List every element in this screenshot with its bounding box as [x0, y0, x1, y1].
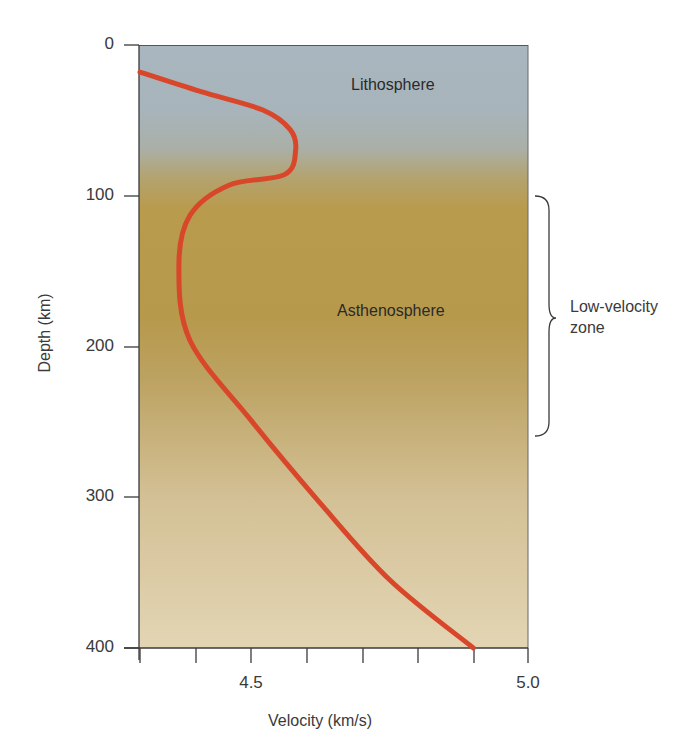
- y-axis: [124, 45, 139, 660]
- low-velocity-zone-line1: Low-velocity: [570, 296, 658, 317]
- low-velocity-zone-label: Low-velocity zone: [570, 296, 658, 338]
- x-axis: [124, 648, 528, 663]
- low-velocity-zone-brace: [535, 196, 556, 436]
- y-tick-label-100: 100: [54, 185, 114, 205]
- asthenosphere-label: Asthenosphere: [337, 302, 445, 320]
- y-tick-label-300: 300: [54, 486, 114, 506]
- x-axis-title: Velocity (km/s): [268, 712, 372, 730]
- lithosphere-label: Lithosphere: [351, 76, 435, 94]
- low-velocity-zone-line2: zone: [570, 317, 658, 338]
- x-tick-label-4-5: 4.5: [221, 673, 281, 693]
- y-tick-label-0: 0: [54, 34, 114, 54]
- plot-area: [139, 45, 528, 648]
- y-tick-label-400: 400: [54, 637, 114, 657]
- y-tick-label-200: 200: [54, 336, 114, 356]
- y-axis-title: Depth (km): [36, 278, 54, 388]
- x-tick-label-5-0: 5.0: [498, 673, 558, 693]
